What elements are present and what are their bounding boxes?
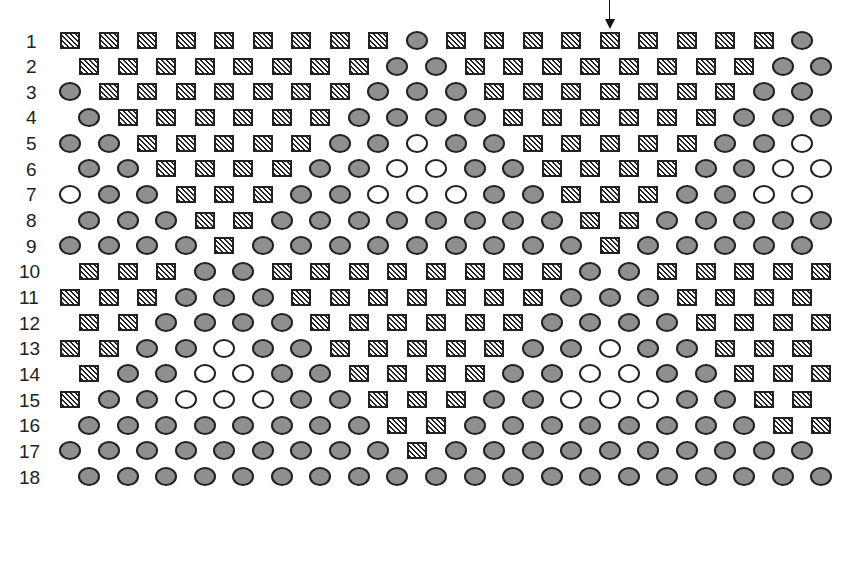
hatched-square-cell	[792, 289, 812, 306]
hatched-square-cell	[580, 58, 600, 75]
hatched-square-cell	[387, 417, 407, 434]
gray-circle-cell	[386, 57, 408, 76]
row-label: 9	[26, 237, 37, 256]
hatched-square-cell	[310, 263, 330, 280]
hatched-square-cell	[233, 212, 253, 229]
gray-circle-cell	[637, 339, 659, 358]
gray-circle-cell	[772, 211, 794, 230]
hatched-square-cell	[156, 109, 176, 126]
hatched-square-cell	[484, 289, 504, 306]
gray-circle-cell	[618, 416, 640, 435]
gray-circle-cell	[676, 339, 698, 358]
hatched-square-cell	[60, 289, 80, 306]
hatched-square-cell	[542, 109, 562, 126]
hatched-square-cell	[657, 160, 677, 177]
hatched-square-cell	[195, 58, 215, 75]
gray-circle-cell	[695, 211, 717, 230]
hatched-square-cell	[99, 32, 119, 49]
gray-circle-cell	[695, 364, 717, 383]
gray-circle-cell	[483, 236, 505, 255]
hatched-square-cell	[60, 340, 80, 357]
gray-circle-cell	[502, 211, 524, 230]
gray-circle-cell	[155, 313, 177, 332]
gray-circle-cell	[483, 134, 505, 153]
row-label: 3	[26, 83, 37, 102]
gray-circle-cell	[579, 416, 601, 435]
hatched-square-cell	[253, 32, 273, 49]
gray-circle-cell	[252, 236, 274, 255]
hatched-square-cell	[503, 263, 523, 280]
gray-circle-cell	[78, 467, 100, 486]
hatched-square-cell	[580, 109, 600, 126]
gray-circle-cell	[406, 31, 428, 50]
hatched-square-cell	[137, 135, 157, 152]
hatched-square-cell	[387, 365, 407, 382]
hatched-square-cell	[426, 417, 446, 434]
gray-circle-cell	[483, 185, 505, 204]
gray-circle-cell	[386, 108, 408, 127]
gray-circle-cell	[386, 211, 408, 230]
gray-circle-cell	[386, 467, 408, 486]
hatched-square-cell	[696, 109, 716, 126]
gray-circle-cell	[213, 441, 235, 460]
hatched-square-cell	[696, 263, 716, 280]
row-label: 8	[26, 211, 37, 230]
gray-circle-cell	[560, 441, 582, 460]
gray-circle-cell	[78, 211, 100, 230]
gray-circle-cell	[271, 313, 293, 332]
gray-circle-cell	[618, 313, 640, 332]
gray-circle-cell	[464, 159, 486, 178]
hatched-square-cell	[754, 391, 774, 408]
hatched-square-cell	[657, 109, 677, 126]
hatched-square-cell	[446, 391, 466, 408]
row-label: 10	[19, 262, 40, 281]
hatched-square-cell	[407, 391, 427, 408]
hatched-square-cell	[696, 314, 716, 331]
hatched-square-cell	[811, 417, 831, 434]
hatched-square-cell	[446, 340, 466, 357]
gray-circle-cell	[656, 211, 678, 230]
gray-circle-cell	[695, 416, 717, 435]
white-circle-cell	[213, 390, 235, 409]
hatched-square-cell	[484, 32, 504, 49]
gray-circle-cell	[541, 211, 563, 230]
hatched-square-cell	[715, 340, 735, 357]
hatched-square-cell	[214, 186, 234, 203]
hatched-square-cell	[407, 340, 427, 357]
hatched-square-cell	[330, 83, 350, 100]
gray-circle-cell	[810, 211, 832, 230]
gray-circle-cell	[599, 441, 621, 460]
hatched-square-cell	[214, 135, 234, 152]
white-circle-cell	[406, 185, 428, 204]
gray-circle-cell	[753, 236, 775, 255]
row-label: 16	[19, 416, 40, 435]
gray-circle-cell	[59, 236, 81, 255]
gray-circle-cell	[348, 159, 370, 178]
hatched-square-cell	[773, 417, 793, 434]
hatched-square-cell	[156, 58, 176, 75]
hatched-square-cell	[754, 32, 774, 49]
hatched-square-cell	[638, 186, 658, 203]
gray-circle-cell	[271, 211, 293, 230]
white-circle-cell	[232, 364, 254, 383]
gray-circle-cell	[117, 416, 139, 435]
hatched-square-cell	[79, 58, 99, 75]
gray-circle-cell	[329, 134, 351, 153]
hatched-square-cell	[600, 186, 620, 203]
gray-circle-cell	[136, 339, 158, 358]
gray-circle-cell	[78, 108, 100, 127]
gray-circle-cell	[791, 236, 813, 255]
gray-circle-cell	[579, 313, 601, 332]
gray-circle-cell	[348, 108, 370, 127]
gray-circle-cell	[733, 108, 755, 127]
hatched-square-cell	[465, 365, 485, 382]
hatched-square-cell	[715, 289, 735, 306]
gray-circle-cell	[464, 467, 486, 486]
white-circle-cell	[599, 339, 621, 358]
hatched-square-cell	[773, 314, 793, 331]
hatched-square-cell	[619, 58, 639, 75]
gray-circle-cell	[271, 416, 293, 435]
hatched-square-cell	[600, 32, 620, 49]
gray-circle-cell	[522, 185, 544, 204]
gray-circle-cell	[329, 185, 351, 204]
